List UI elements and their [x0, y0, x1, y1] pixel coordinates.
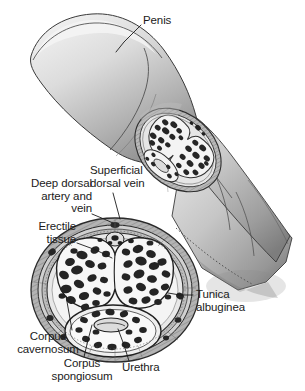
leader-superficial-dorsal-vein: [113, 193, 120, 219]
label-tunica-albuginea: Tunica albuginea: [196, 288, 245, 313]
label-erectile-tissue: Erectile tissue: [0, 220, 76, 245]
anatomy-figure: Penis Superficial dorsal vein Deep dorsa…: [0, 0, 305, 391]
label-corpus-cavernosum: Corpus cavernosum: [4, 330, 92, 355]
label-urethra: Urethra: [122, 361, 160, 374]
label-corpus-spongiosum: Corpus spongiosum: [36, 357, 128, 382]
label-deep-dorsal-artery-and-vein: Deep dorsal artery and vein: [0, 177, 92, 215]
label-penis: Penis: [143, 14, 171, 27]
label-superficial-dorsal-vein: Superficial dorsal vein: [90, 164, 145, 189]
